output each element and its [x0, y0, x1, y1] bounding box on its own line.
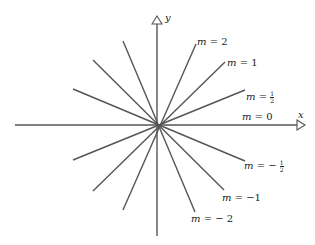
slope-diagram: y x m = 2 m = 1 m = 12 m = 0 m = − 12 m …	[0, 0, 315, 245]
label-eq: =	[255, 91, 270, 102]
label-value: = 1	[236, 57, 257, 68]
label-value: = −1	[231, 192, 260, 203]
label-value: = 2	[206, 36, 227, 47]
fraction-half: 12	[270, 91, 274, 104]
x-axis-label: x	[298, 110, 304, 120]
diagram-canvas	[0, 0, 315, 245]
y-axis-label: y	[165, 13, 171, 23]
y-label-text: y	[165, 12, 171, 23]
label-m-neg-half: m = − 12	[244, 160, 284, 173]
y-axis-arrow-icon	[152, 16, 162, 24]
x-label-text: x	[298, 109, 304, 120]
label-value: = 0	[251, 111, 272, 122]
x-axis-arrow-icon	[297, 120, 305, 130]
label-m-1: m = 1	[227, 58, 258, 68]
label-m-half: m = 12	[246, 91, 274, 104]
label-m-0: m = 0	[242, 112, 273, 122]
label-eq: = −	[253, 160, 279, 171]
label-m-neg-2: m = − 2	[191, 214, 233, 224]
label-m-2: m = 2	[197, 37, 228, 47]
label-value: = − 2	[200, 213, 233, 224]
label-m-neg-1: m = −1	[222, 193, 261, 203]
fraction-half: 12	[280, 160, 284, 173]
fraction-den: 2	[270, 98, 274, 104]
fraction-den: 2	[280, 167, 284, 173]
